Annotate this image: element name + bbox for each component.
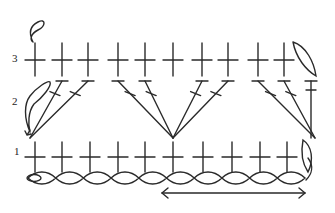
chain-stitch	[222, 172, 250, 184]
single-crochet-stitch	[192, 43, 212, 76]
single-crochet-stitch	[80, 142, 100, 172]
turning-chain-row3-end	[293, 42, 316, 76]
single-crochet-stitch	[78, 43, 98, 76]
single-crochet-stitch	[135, 43, 155, 76]
single-crochet-stitch	[222, 142, 242, 172]
single-crochet-stitch	[108, 142, 128, 172]
chain-stitch	[111, 172, 139, 184]
row-1-stitches	[25, 142, 297, 172]
turning-chain-row3	[30, 21, 44, 42]
single-crochet-stitch	[193, 142, 213, 172]
single-crochet-stitch	[163, 142, 183, 172]
single-crochet-stitch	[25, 142, 45, 172]
chain-stitch	[194, 172, 222, 184]
turning-chain-row1	[302, 140, 311, 172]
single-crochet-stitch	[108, 43, 128, 76]
single-crochet-stitch	[135, 142, 155, 172]
chain-stitch	[139, 172, 167, 184]
slip-knot	[27, 175, 41, 182]
single-crochet-stitch	[52, 43, 72, 76]
hdc-stitch	[173, 81, 208, 138]
hdc-stitch	[173, 81, 234, 138]
row-2-stitches	[30, 81, 317, 138]
chain-stitch	[277, 172, 305, 184]
foundation-chain	[27, 172, 305, 184]
single-crochet-stitch	[25, 43, 45, 76]
chain-stitch	[56, 172, 84, 184]
hdc-stitch	[112, 81, 173, 138]
hdc-stitch	[30, 81, 94, 138]
single-crochet-stitch	[163, 43, 183, 76]
single-crochet-stitch	[248, 43, 268, 76]
chain-stitch	[83, 172, 111, 184]
single-crochet-stitch	[52, 142, 72, 172]
crochet-chart	[0, 0, 335, 213]
chain-stitch	[167, 172, 195, 184]
single-crochet-stitch	[274, 43, 294, 76]
single-crochet-stitch	[250, 142, 270, 172]
hdc-stitch	[139, 81, 173, 138]
single-crochet-stitch	[218, 43, 238, 76]
row-3-stitches	[25, 43, 294, 76]
single-crochet-stitch	[277, 142, 297, 172]
chain-stitch	[28, 172, 56, 184]
repeat-arrow	[162, 188, 305, 198]
chain-stitch	[250, 172, 278, 184]
